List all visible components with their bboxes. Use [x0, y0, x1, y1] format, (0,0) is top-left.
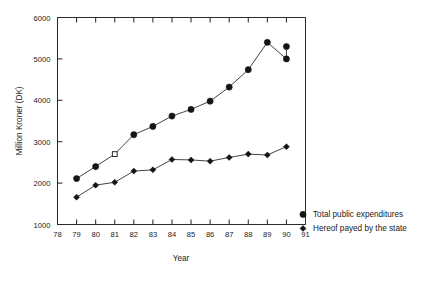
- data-point: [73, 175, 79, 181]
- x-tick-label: 88: [244, 230, 252, 239]
- x-tick-label: 84: [168, 230, 176, 239]
- data-point: [264, 39, 270, 45]
- data-point: [131, 132, 137, 138]
- data-point: [226, 84, 232, 90]
- legend-label: Total public expenditures: [313, 210, 403, 219]
- chart-figure: 100020003000400050006000 787980818283848…: [0, 0, 444, 281]
- x-tick-label: 83: [149, 230, 157, 239]
- x-tick-label: 80: [91, 230, 99, 239]
- x-tick-label: 90: [282, 230, 290, 239]
- y-axis-title: Million Kroner (DK): [15, 86, 24, 155]
- data-point: [207, 98, 213, 104]
- x-tick-label: 86: [206, 230, 214, 239]
- x-tick-label: 87: [225, 230, 233, 239]
- x-tick-label: 85: [187, 230, 195, 239]
- x-tick-label: 78: [53, 230, 61, 239]
- x-tick-label: 82: [130, 230, 138, 239]
- data-point: [93, 163, 99, 169]
- figure-background: [0, 0, 444, 281]
- data-point: [283, 56, 289, 62]
- legend-item-0: Total public expenditures: [300, 210, 403, 219]
- y-tick-label: 1000: [34, 221, 51, 230]
- legend-item-1: Hereof payed by the state: [300, 224, 407, 233]
- data-point: [150, 123, 156, 129]
- y-tick-label: 2000: [34, 179, 51, 188]
- data-point: [188, 106, 194, 112]
- y-tick-label: 6000: [34, 14, 51, 23]
- y-tick-label: 4000: [34, 96, 51, 105]
- x-tick-label: 81: [111, 230, 119, 239]
- x-axis-title: Year: [173, 254, 190, 263]
- y-tick-label: 5000: [34, 55, 51, 64]
- data-point: [283, 43, 289, 49]
- legend-label: Hereof payed by the state: [313, 224, 407, 233]
- x-tick-label: 79: [72, 230, 80, 239]
- data-point-open: [112, 152, 117, 157]
- data-point: [169, 113, 175, 119]
- y-tick-label: 3000: [34, 138, 51, 147]
- data-point: [245, 67, 251, 73]
- x-tick-label: 89: [263, 230, 271, 239]
- legend-marker-circle: [300, 211, 306, 217]
